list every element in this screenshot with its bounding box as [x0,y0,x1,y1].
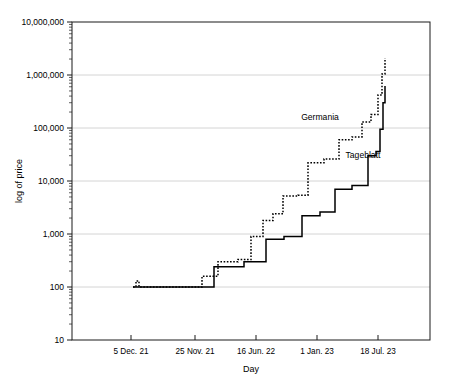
x-tick-label: 1 Jan. 23 [300,347,334,356]
chart-figure: 10,000,0001,000,000100,00010,0001,000100… [0,0,449,385]
x-tick-label: 18 Jul. 23 [360,347,396,356]
y-tick-label: 100 [50,282,64,292]
x-tick-label: 25 Nov. 21 [176,347,215,356]
y-axis-title: log of price [14,159,24,203]
y-tick-label: 100,000 [33,123,64,133]
y-tick-label: 1,000 [43,229,65,239]
x-axis-title: Day [243,364,260,374]
y-tick-label: 10 [55,335,65,345]
series-label-germania: Germania [301,112,339,122]
y-tick-label: 10,000 [38,176,64,186]
chart-background [0,0,449,385]
x-tick-label: 16 Jun. 22 [237,347,276,356]
y-tick-label: 10,000,000 [21,17,64,27]
y-tick-label: 1,000,000 [26,70,64,80]
x-tick-label: 5 Dec. 21 [113,347,148,356]
chart-svg: 10,000,0001,000,000100,00010,0001,000100… [0,0,449,385]
series-label-tageblatt: Tageblatt [346,150,381,160]
